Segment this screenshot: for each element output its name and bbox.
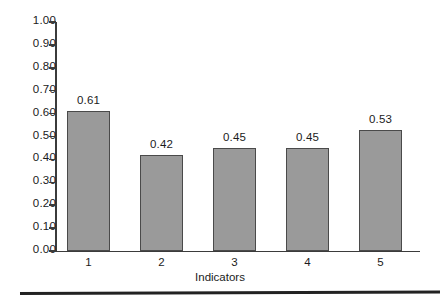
x-tick-label: 3 (205, 256, 265, 268)
y-tick-label: 0.50 (12, 129, 56, 141)
y-tick-label: 0.40 (12, 151, 56, 163)
bar-value-label: 0.45 (278, 131, 338, 143)
y-tick-label: 0.00 (12, 243, 56, 255)
bar (213, 148, 256, 251)
y-tick-label: 0.20 (12, 197, 56, 209)
bar (67, 111, 110, 251)
x-tick-label: 2 (132, 256, 192, 268)
y-tick-mark (49, 136, 56, 138)
y-tick-mark (49, 204, 56, 206)
bar (359, 130, 402, 251)
bar-value-label: 0.61 (59, 94, 119, 106)
y-tick-mark (49, 90, 56, 92)
y-tick-label: 0.10 (12, 220, 56, 232)
y-tick-label: 1.00 (12, 14, 56, 26)
x-tick-label: 4 (278, 256, 338, 268)
y-tick-label: 0.60 (12, 106, 56, 118)
y-tick-mark (49, 21, 56, 23)
bottom-divider-rule (20, 290, 440, 294)
y-tick-mark (49, 182, 56, 184)
bar-value-label: 0.53 (351, 113, 411, 125)
y-tick-mark (49, 159, 56, 161)
y-tick-label: 0.30 (12, 174, 56, 186)
y-tick-label: 0.70 (12, 83, 56, 95)
y-tick-mark (49, 67, 56, 69)
x-axis-title: Indicators (0, 271, 440, 283)
bar (140, 155, 183, 251)
y-tick-mark (49, 44, 56, 46)
y-tick-label: 0.90 (12, 37, 56, 49)
bar-value-label: 0.42 (132, 138, 192, 150)
y-tick-mark (49, 113, 56, 115)
y-tick-mark (49, 227, 56, 229)
bar-value-label: 0.45 (205, 131, 265, 143)
y-tick-label: 0.80 (12, 60, 56, 72)
y-tick-mark (49, 250, 56, 252)
bar-chart-figure: 0.000.100.200.300.400.500.600.700.800.90… (0, 0, 440, 305)
x-tick-label: 1 (59, 256, 119, 268)
x-tick-label: 5 (351, 256, 411, 268)
bar (286, 148, 329, 251)
